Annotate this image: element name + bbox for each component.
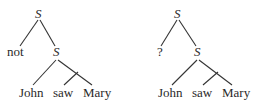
leaf-john: John — [158, 85, 183, 100]
edge-root-to-not — [20, 20, 38, 46]
tree-question: S ? S John saw Mary — [157, 6, 251, 100]
edge-s-to-mary — [199, 60, 232, 85]
leaf-john: John — [19, 85, 44, 100]
inner-s-label: S — [53, 44, 60, 59]
leaf-mary: Mary — [83, 85, 112, 100]
syntax-tree-diagram: S not S John saw Mary S ? S John saw Mar… — [0, 0, 262, 109]
leaf-mary: Mary — [222, 85, 251, 100]
edge-vp-to-saw — [64, 72, 78, 85]
root-s-label: S — [35, 6, 42, 21]
question-mark-label: ? — [157, 44, 163, 59]
edge-s-to-john — [172, 60, 197, 85]
edge-vp-to-saw — [203, 72, 218, 85]
not-label: not — [7, 44, 24, 59]
inner-s-label: S — [194, 44, 201, 59]
edge-root-to-s — [40, 20, 55, 46]
edge-root-to-s — [179, 20, 196, 46]
root-s-label: S — [174, 6, 181, 21]
edge-root-to-question — [161, 20, 177, 46]
edge-s-to-john — [33, 60, 56, 85]
leaf-saw: saw — [53, 85, 74, 100]
tree-negation: S not S John saw Mary — [7, 6, 112, 100]
edge-s-to-mary — [58, 60, 92, 85]
leaf-saw: saw — [192, 85, 213, 100]
